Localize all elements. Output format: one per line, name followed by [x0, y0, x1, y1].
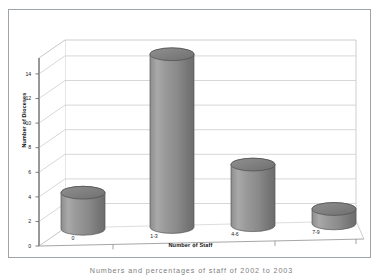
y-tick-label-4: 4: [15, 194, 31, 200]
chart-3d-scene: [9, 10, 372, 259]
bar-cylinder-2[interactable]: [231, 158, 275, 231]
x-tick-label-1-3: 1-3: [137, 233, 171, 239]
plot-area: 14 12 10 8 6 4 2 0 0 1-3 4-6 7-9 Number …: [9, 10, 372, 259]
bar-cylinder-3[interactable]: [312, 203, 356, 230]
x-tick-label-4-6: 4-6: [218, 231, 252, 237]
x-tick-label-7-9: 7-9: [299, 229, 333, 235]
bar-cylinder-1[interactable]: [150, 48, 194, 234]
y-tick-label-6: 6: [15, 169, 31, 175]
x-axis-title: Number of Staff: [9, 242, 372, 248]
back-wall: [65, 40, 356, 228]
x-tick-label-0: 0: [56, 235, 90, 241]
chart-frame: 14 12 10 8 6 4 2 0 0 1-3 4-6 7-9 Number …: [8, 9, 371, 258]
figure-caption: Numbers and percentages of staff of 2002…: [0, 266, 383, 275]
figure-container: 14 12 10 8 6 4 2 0 0 1-3 4-6 7-9 Number …: [0, 0, 383, 275]
y-axis-title: Number of Dioceses: [21, 85, 27, 155]
y-tick-label-2: 2: [15, 218, 31, 224]
y-axis: [36, 58, 40, 246]
y-tick-label-14: 14: [15, 71, 31, 77]
bar-cylinder-0[interactable]: [61, 186, 105, 235]
